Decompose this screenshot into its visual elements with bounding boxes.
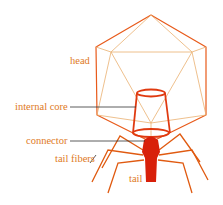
label-head: head (70, 56, 90, 67)
phage-diagram: head internal core connector tail fibers… (0, 0, 223, 205)
head-icosahedron (96, 15, 206, 142)
label-internal-core: internal core (15, 102, 68, 113)
label-tail-fibers: tail fibers (55, 154, 95, 165)
connector-and-tail (142, 137, 160, 183)
internal-core (133, 90, 170, 138)
label-tail: tail (129, 174, 142, 185)
label-connector: connector (26, 136, 67, 147)
